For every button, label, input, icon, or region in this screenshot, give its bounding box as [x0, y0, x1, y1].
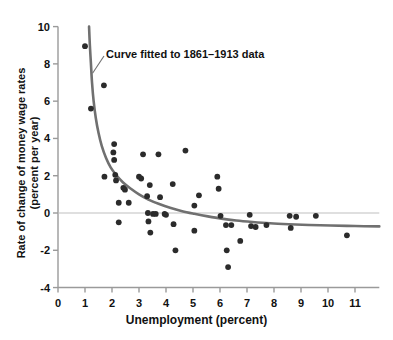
data-point: [140, 151, 146, 157]
data-point: [147, 230, 153, 236]
data-point: [157, 194, 163, 200]
data-point: [112, 172, 118, 178]
data-point: [163, 212, 169, 218]
data-point: [228, 222, 234, 228]
curve-annotation-label: Curve fitted to 1861–1913 data: [106, 48, 264, 60]
data-point: [196, 192, 202, 198]
x-axis-title: Unemployment (percent): [0, 313, 393, 327]
data-point: [145, 210, 151, 216]
x-tick-label: 10: [322, 297, 334, 309]
data-point: [102, 174, 108, 180]
data-point: [88, 106, 94, 112]
data-point: [147, 182, 153, 188]
data-point: [122, 187, 128, 193]
data-point: [344, 232, 350, 238]
data-point: [264, 222, 270, 228]
data-point: [224, 247, 230, 253]
data-point: [153, 211, 159, 217]
y-axis-title: Rate of change of money wage rates (perc…: [15, 43, 41, 283]
data-point: [293, 214, 299, 220]
data-point: [237, 238, 243, 244]
data-point: [116, 200, 122, 206]
x-tick-label: 8: [271, 297, 277, 309]
y-axis-title-line-2: (percent per year): [28, 43, 41, 283]
data-point: [111, 141, 117, 147]
data-point: [173, 247, 179, 253]
data-point: [313, 213, 319, 219]
data-point: [223, 222, 229, 228]
data-point: [191, 203, 197, 209]
data-point: [146, 218, 152, 224]
x-tick-label: 9: [298, 297, 304, 309]
x-tick-label: 4: [163, 297, 169, 309]
x-tick-label: 0: [55, 297, 61, 309]
data-point: [110, 150, 116, 156]
data-point: [171, 221, 177, 227]
annotation-leader-line: [93, 56, 104, 73]
y-tick-label: 10: [14, 21, 50, 33]
data-point: [156, 151, 162, 157]
data-point: [116, 219, 122, 225]
y-axis-title-line-1: Rate of change of money wage rates: [15, 43, 28, 283]
x-tick-label: 2: [109, 297, 115, 309]
x-tick-label: 3: [136, 297, 142, 309]
tick-marks: [53, 27, 355, 293]
data-point: [138, 176, 144, 182]
x-tick-label: 11: [349, 297, 361, 309]
phillips-curve-chart: -4-20246810 01234567891011 Rate of chang…: [0, 0, 393, 340]
data-point: [170, 181, 176, 187]
data-point: [247, 212, 253, 218]
data-point: [82, 43, 88, 49]
data-point: [113, 177, 119, 183]
x-tick-label: 6: [217, 297, 223, 309]
annotation-leader: [93, 56, 104, 73]
data-point: [191, 228, 197, 234]
x-tick-label: 7: [244, 297, 250, 309]
x-tick-label: 1: [82, 297, 88, 309]
data-point: [214, 174, 220, 180]
data-point: [101, 82, 107, 88]
data-point: [218, 213, 224, 219]
data-point: [216, 186, 222, 192]
x-tick-label: 5: [190, 297, 196, 309]
data-point: [288, 225, 294, 231]
data-point: [111, 157, 117, 163]
data-point: [183, 148, 189, 154]
data-point: [144, 193, 150, 199]
data-point: [225, 264, 231, 270]
data-point: [126, 200, 132, 206]
data-points: [82, 43, 350, 270]
data-point: [253, 224, 259, 230]
y-tick-label: -4: [14, 282, 50, 294]
data-point: [287, 213, 293, 219]
